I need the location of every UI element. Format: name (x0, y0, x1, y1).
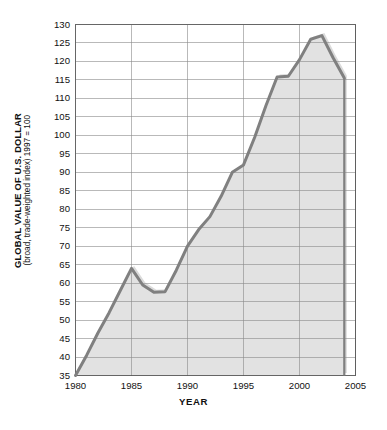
y-tick-label: 50 (44, 315, 70, 325)
y-axis-title-group: GLOBAL VALUE OF U.S. DOLLAR (broad, trad… (6, 0, 40, 380)
y-tick-label: 80 (44, 204, 70, 214)
y-tick-label: 35 (44, 371, 70, 381)
y-tick-label: 70 (44, 241, 70, 251)
x-tick-label: 1990 (166, 381, 210, 391)
chart-figure: GLOBAL VALUE OF U.S. DOLLAR (broad, trad… (0, 0, 387, 430)
y-tick-label: 90 (44, 167, 70, 177)
x-tick-label: 1980 (54, 381, 98, 391)
y-tick-label: 95 (44, 149, 70, 159)
y-tick-label: 110 (44, 93, 70, 103)
x-tick-label: 2005 (334, 381, 378, 391)
y-tick-label: 115 (44, 75, 70, 85)
y-tick-label: 65 (44, 260, 70, 270)
x-tick-label: 1985 (110, 381, 154, 391)
y-tick-label: 130 (44, 20, 70, 30)
y-tick-label: 40 (44, 352, 70, 362)
y-tick-label: 45 (44, 334, 70, 344)
y-tick-label: 125 (44, 38, 70, 48)
y-tick-label: 105 (44, 112, 70, 122)
y-tick-label: 120 (44, 56, 70, 66)
x-tick-label: 2000 (278, 381, 322, 391)
area-fill (76, 36, 345, 376)
x-axis-title: YEAR (0, 396, 387, 407)
y-tick-label: 55 (44, 297, 70, 307)
y-tick-label: 60 (44, 278, 70, 288)
y-tick-label: 85 (44, 186, 70, 196)
x-tick-label: 1995 (222, 381, 266, 391)
y-tick-label: 100 (44, 130, 70, 140)
y-axis-subtitle: (broad, trade-weighted index) 1997 = 100 (24, 115, 32, 265)
y-axis-title: GLOBAL VALUE OF U.S. DOLLAR (14, 113, 23, 268)
y-tick-label: 75 (44, 223, 70, 233)
